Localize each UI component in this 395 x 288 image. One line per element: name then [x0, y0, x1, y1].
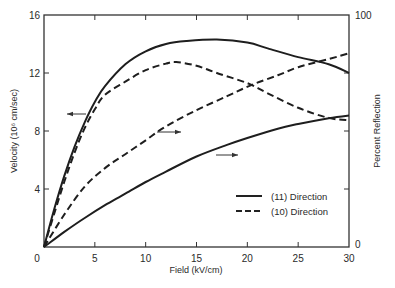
velocity-reflection-chart: 0510152025304812160100 Field (kV/cm) Vel… [0, 0, 395, 288]
y2-tick-label: 0 [355, 239, 361, 250]
x-tick-label: 0 [34, 253, 40, 264]
x-tick-label: 30 [343, 253, 355, 264]
x-axis-title: Field (kV/cm) [169, 265, 222, 275]
y2-tick-label: 100 [355, 10, 372, 21]
legend: (11) Direction (10) Direction [236, 191, 328, 217]
y-tick-label: 16 [29, 10, 41, 21]
y-tick-label: 8 [34, 126, 40, 137]
x-tick-label: 10 [140, 253, 152, 264]
y2-axis-title: Percent Reflection [372, 94, 382, 168]
arrow-right-icon-head [232, 153, 238, 157]
x-tick-label: 20 [242, 253, 254, 264]
y-tick-label: 4 [34, 184, 40, 195]
legend-label-10: (10) Direction [271, 206, 328, 217]
arrow-left-icon-head [67, 112, 73, 116]
x-tick-label: 15 [191, 253, 203, 264]
legend-label-11: (11) Direction [271, 191, 327, 202]
x-tick-label: 5 [92, 253, 98, 264]
arrow-right-icon-head [175, 130, 181, 134]
x-tick-label: 25 [293, 253, 305, 264]
series-percent-reflection-10-direction [44, 53, 349, 247]
series-velocity-10-direction [44, 62, 349, 247]
y-axis-title: Velocity (10⁶ cm/sec) [9, 89, 19, 173]
y-tick-label: 12 [29, 68, 41, 79]
